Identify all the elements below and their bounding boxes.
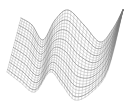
- mesh-row-line: [9, 10, 123, 90]
- mesh-column-line: [20, 25, 32, 82]
- mesh-row-line: [18, 10, 123, 51]
- mesh-column-line: [14, 21, 27, 77]
- wireframe-surface-plot: [0, 0, 130, 108]
- mesh-row-line: [7, 10, 123, 100]
- mesh-row-line: [21, 10, 123, 42]
- mesh-row-lines: [7, 10, 123, 100]
